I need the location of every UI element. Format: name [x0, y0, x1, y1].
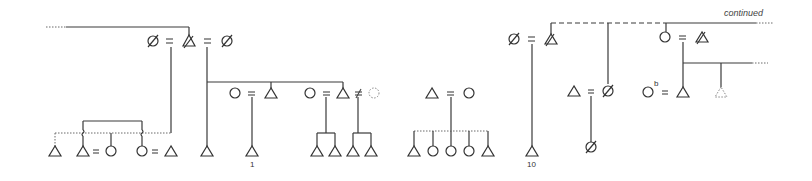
male-icon — [408, 146, 420, 156]
male-icon — [526, 146, 538, 156]
female-icon — [643, 87, 653, 97]
child-number-label: 10 — [527, 160, 536, 169]
female-icon — [428, 146, 438, 156]
male-icon — [246, 146, 258, 156]
male-icon — [426, 88, 438, 98]
equals-icon — [248, 92, 255, 95]
female-icon — [305, 88, 315, 98]
deceased-male-icon — [545, 34, 557, 46]
child-number-label: 1 — [250, 160, 254, 169]
equals-icon — [447, 92, 454, 95]
sibling-lines-g7 — [683, 63, 768, 87]
sibling-lines-g2 — [207, 82, 343, 88]
top-left-descent-line — [46, 27, 189, 36]
female-icon — [464, 88, 474, 98]
kinship-diagram: continued 1 10 b — [0, 0, 812, 181]
male-icon — [311, 146, 323, 156]
equals-icon — [528, 37, 535, 41]
male-icon — [347, 146, 359, 156]
male-icon — [677, 87, 689, 97]
deceased-female-icon — [586, 141, 596, 153]
equals-icon — [588, 90, 594, 93]
male-icon — [365, 146, 377, 156]
equals-icon — [152, 150, 158, 153]
couple-g2 — [230, 88, 277, 98]
equals-icon — [93, 150, 99, 153]
male-icon — [77, 146, 89, 156]
couple-g3 — [305, 88, 379, 98]
female-icon — [230, 88, 240, 98]
female-icon — [660, 32, 670, 42]
deceased-male-icon — [183, 35, 195, 48]
continued-label: continued — [724, 8, 763, 18]
deceased-female-icon — [148, 35, 158, 47]
sibling-lines-g3 — [317, 133, 371, 146]
deceased-female-icon — [509, 33, 519, 45]
equals-icon — [662, 91, 668, 94]
female-icon — [106, 146, 116, 156]
male-icon — [337, 88, 349, 98]
male-icon — [201, 146, 213, 156]
equals-icon — [166, 39, 173, 43]
superscript-label: b — [654, 79, 658, 88]
male-icon — [165, 146, 177, 156]
couple-g4 — [426, 88, 474, 98]
male-icon — [482, 146, 494, 156]
couple-g6 — [568, 85, 613, 97]
deceased-female-icon — [222, 35, 232, 47]
male-icon — [265, 88, 277, 98]
deceased-female-icon — [603, 85, 613, 97]
male-icon — [568, 86, 580, 96]
sibling-lines-g1 — [55, 121, 171, 148]
equals-icon — [204, 39, 211, 43]
male-icon — [329, 146, 341, 156]
female-icon — [137, 146, 147, 156]
female-icon — [464, 146, 474, 156]
deceased-male-icon — [696, 32, 708, 44]
female-icon — [446, 146, 456, 156]
dotted-male-icon — [715, 87, 727, 97]
equals-icon — [323, 92, 330, 95]
dotted-female-icon — [369, 88, 379, 98]
not-equals-icon — [355, 89, 362, 98]
couple-g8 — [643, 87, 689, 97]
couple-g1 — [148, 35, 232, 48]
male-icon — [49, 146, 61, 156]
couple-g7 — [660, 32, 708, 44]
sibling-lines-g4 — [414, 131, 488, 146]
equals-icon — [679, 36, 686, 39]
couple-g5 — [509, 33, 557, 46]
